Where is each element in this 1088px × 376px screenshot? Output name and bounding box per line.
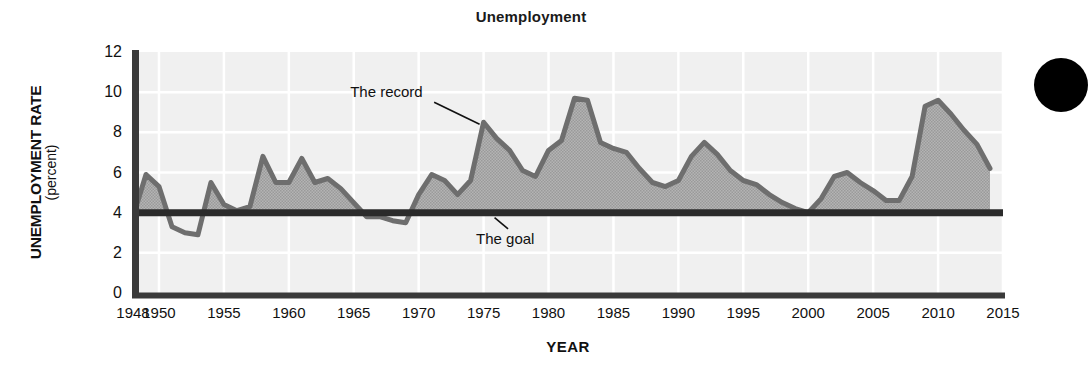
y-tick-4: 4 [88,205,122,221]
x-tick-1975: 1975 [467,305,500,320]
x-tick-2015: 2015 [986,305,1019,320]
x-tick-1990: 1990 [662,305,695,320]
x-tick-1980: 1980 [532,305,565,320]
chart-title: Unemployment [0,8,1074,25]
plot-area: The record The goal [133,52,1003,293]
y-axis-label: UNEMPLOYMENT RATE (percent) [18,48,70,296]
x-tick-1965: 1965 [337,305,370,320]
x-tick-1995: 1995 [727,305,760,320]
plot-svg [133,52,1003,293]
x-tick-1960: 1960 [272,305,305,320]
y-tick-6: 6 [88,165,122,181]
page-corner-dot-icon [1034,58,1088,112]
x-tick-2010: 2010 [921,305,954,320]
y-tick-2: 2 [88,245,122,261]
y-axis-units-text: (percent) [45,85,60,259]
x-tick-1970: 1970 [402,305,435,320]
y-tick-0: 0 [88,285,122,301]
y-tick-12: 12 [88,44,122,60]
x-tick-1985: 1985 [597,305,630,320]
record-annotation-label: The record [350,84,423,99]
y-tick-8: 8 [88,124,122,140]
x-tick-1955: 1955 [207,305,240,320]
goal-annotation-label: The goal [476,231,534,246]
x-axis-label: YEAR [546,338,589,355]
y-tick-10: 10 [88,84,122,100]
x-tick-2000: 2000 [792,305,825,320]
x-tick-1950: 1950 [142,305,175,320]
y-axis-label-text: UNEMPLOYMENT RATE [29,85,45,259]
x-tick-2005: 2005 [856,305,889,320]
